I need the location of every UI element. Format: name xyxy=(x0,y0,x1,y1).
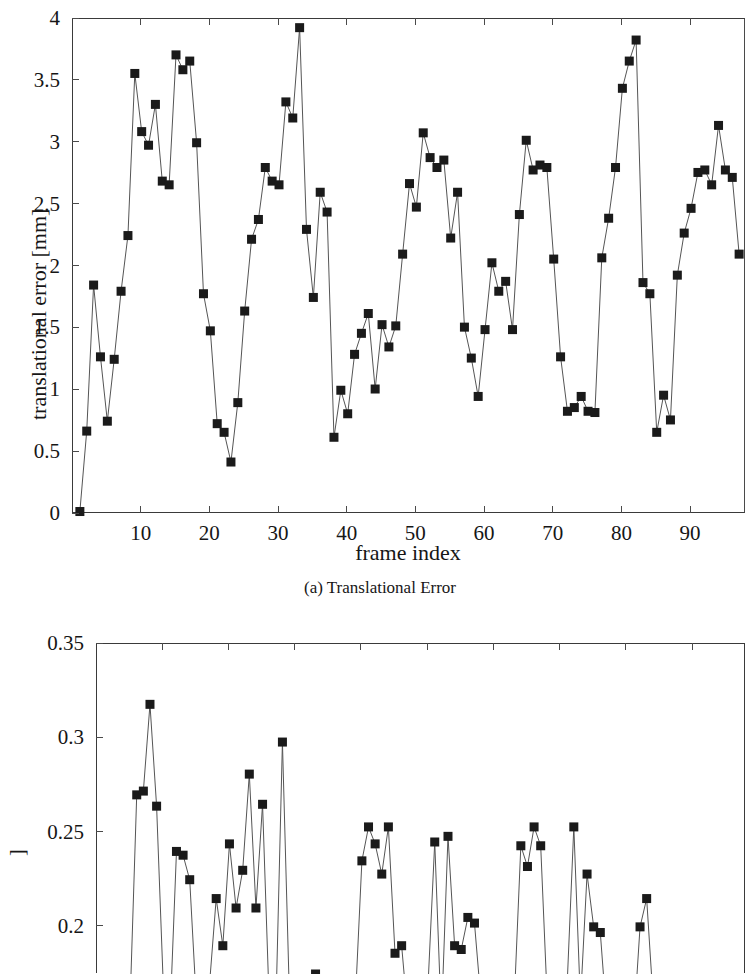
data-point-marker xyxy=(130,69,139,78)
chart-rotational-error: 0.20.250.30.35 ] xyxy=(0,620,755,856)
data-point-marker xyxy=(728,173,737,182)
data-point-marker xyxy=(378,320,387,329)
data-point-marker xyxy=(735,250,744,259)
x-tick-label: 90 xyxy=(680,523,701,544)
data-point-marker xyxy=(238,866,247,875)
data-point-marker xyxy=(213,419,222,428)
data-line xyxy=(80,28,739,512)
data-point-marker xyxy=(398,250,407,259)
data-point-marker xyxy=(515,210,524,219)
data-point-marker xyxy=(258,800,267,809)
data-point-marker xyxy=(311,970,320,974)
y-tick-label: 0.25 xyxy=(47,821,84,842)
series-rotational-error xyxy=(97,644,746,974)
data-point-marker xyxy=(439,156,448,165)
data-point-marker xyxy=(453,188,462,197)
data-point-marker xyxy=(220,428,229,437)
data-point-marker xyxy=(245,770,254,779)
x-tick-mark xyxy=(346,506,347,513)
y-tick-label: 0 xyxy=(50,503,61,524)
data-point-marker xyxy=(225,839,234,848)
data-point-marker xyxy=(457,945,466,954)
x-tick-mark xyxy=(552,506,553,513)
subfigure-a-caption: (a) Translational Error xyxy=(304,578,456,598)
x-axis-title-translational: frame index xyxy=(355,540,461,566)
y-tick-label: 3.5 xyxy=(34,69,60,90)
y-tick-label: 0.35 xyxy=(47,633,84,654)
x-tick-label: 10 xyxy=(130,523,151,544)
data-point-marker xyxy=(625,57,634,66)
data-point-marker xyxy=(426,153,435,162)
data-point-marker xyxy=(516,841,525,850)
data-point-marker xyxy=(597,253,606,262)
y-tick-mark xyxy=(72,18,79,19)
series-translational-error xyxy=(73,19,746,514)
x-tick-label: 80 xyxy=(611,523,632,544)
x-tick-mark-top xyxy=(692,643,693,650)
x-tick-mark-top xyxy=(493,643,494,650)
y-tick-label: 0.3 xyxy=(58,727,84,748)
data-point-marker xyxy=(251,904,260,913)
x-tick-mark xyxy=(690,506,691,513)
x-tick-mark xyxy=(140,506,141,513)
x-tick-mark-top xyxy=(559,643,560,650)
data-point-marker xyxy=(556,352,565,361)
data-point-marker xyxy=(232,904,241,913)
data-point-marker xyxy=(226,458,235,467)
x-tick-mark-top xyxy=(415,18,416,25)
x-tick-mark-top xyxy=(140,18,141,25)
data-point-marker xyxy=(240,307,249,316)
data-point-marker xyxy=(430,838,439,847)
data-point-marker xyxy=(139,787,148,796)
data-point-marker xyxy=(218,941,227,950)
x-tick-label: 70 xyxy=(542,523,563,544)
y-tick-mark xyxy=(72,451,79,452)
data-point-marker xyxy=(645,289,654,298)
data-point-marker xyxy=(460,323,469,332)
data-point-marker xyxy=(583,870,592,879)
data-point-marker xyxy=(569,822,578,831)
y-tick-label: 4 xyxy=(50,8,61,29)
y-tick-label: 0.5 xyxy=(34,441,60,462)
data-point-marker xyxy=(185,875,194,884)
data-point-marker xyxy=(446,234,455,243)
y-tick-mark xyxy=(72,203,79,204)
x-tick-label: 20 xyxy=(199,523,220,544)
x-tick-mark-top xyxy=(625,643,626,650)
data-point-marker xyxy=(494,287,503,296)
data-point-marker xyxy=(714,121,723,130)
y-tick-mark xyxy=(72,389,79,390)
y-tick-label: 0.2 xyxy=(58,915,84,936)
x-tick-mark-top xyxy=(690,18,691,25)
data-point-marker xyxy=(642,894,651,903)
data-point-marker xyxy=(295,23,304,32)
data-point-marker xyxy=(123,231,132,240)
data-point-marker xyxy=(570,403,579,412)
data-point-marker xyxy=(523,862,532,871)
data-point-marker xyxy=(89,281,98,290)
y-tick-mark xyxy=(96,925,103,926)
data-point-marker xyxy=(371,385,380,394)
data-point-marker xyxy=(384,822,393,831)
data-point-marker xyxy=(666,415,675,424)
x-tick-mark xyxy=(484,506,485,513)
data-point-marker xyxy=(364,822,373,831)
data-point-marker xyxy=(145,700,154,709)
data-point-marker xyxy=(397,941,406,950)
data-point-marker xyxy=(371,839,380,848)
y-tick-mark xyxy=(72,513,79,514)
y-tick-label: 3 xyxy=(50,131,61,152)
data-point-marker xyxy=(96,352,105,361)
data-point-marker xyxy=(323,208,332,217)
y-tick-mark xyxy=(96,831,103,832)
y-axis-title-rotational-partial: ] xyxy=(6,849,29,856)
data-point-marker xyxy=(178,65,187,74)
data-point-marker xyxy=(604,214,613,223)
data-point-marker xyxy=(329,433,338,442)
data-point-marker xyxy=(659,391,668,400)
data-point-marker xyxy=(384,342,393,351)
data-point-marker xyxy=(179,851,188,860)
data-point-marker xyxy=(405,179,414,188)
x-tick-mark-top xyxy=(427,643,428,650)
data-point-marker xyxy=(577,392,586,401)
